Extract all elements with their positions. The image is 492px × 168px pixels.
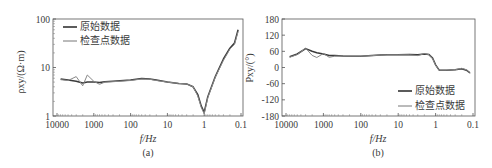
x-tick-label: 1: [202, 120, 207, 130]
x-tick-label: 0.1: [467, 120, 479, 130]
legend-b: 原始数据 检查点数据: [398, 84, 465, 111]
x-axis-a: 1000010001001010.1: [45, 113, 247, 130]
x-tick-label: 10000: [274, 120, 298, 130]
figure: 100101 1000010001001010.1 原始数据 检查点数据 f/H…: [0, 0, 492, 168]
plot-lines-b: [290, 48, 470, 73]
panel-a: 100101 1000010001001010.1 原始数据 检查点数据 f/H…: [15, 15, 247, 160]
x-tick-label: 100: [123, 120, 138, 130]
y-axis-b: 180120600-60-120-180: [262, 15, 285, 122]
legend-label-original: 原始数据: [80, 20, 120, 32]
caption-a: (a): [142, 147, 153, 159]
x-tick-label: 10: [163, 120, 173, 130]
y-tick-label: 60: [270, 47, 280, 57]
x-tick-label: 100: [354, 120, 369, 130]
legend-label-check: 检查点数据: [80, 34, 130, 46]
series-original-line: [290, 49, 470, 73]
x-tick-label: 1: [433, 120, 438, 130]
legend-a: 原始数据 检查点数据: [63, 20, 130, 46]
y-tick-label: -60: [266, 79, 279, 89]
x-tick-label: 0.1: [235, 120, 247, 130]
y-tick-label: 100: [36, 15, 51, 25]
panel-b: 180120600-60-120-180 1000010001001010.1 …: [244, 15, 479, 160]
x-tick-label: 1000: [314, 120, 333, 130]
x-tick-label: 10: [393, 120, 403, 130]
x-axis-label-b: f/Hz: [370, 133, 387, 144]
legend-label-check: 检查点数据: [415, 99, 465, 111]
caption-b: (b): [372, 147, 384, 159]
y-tick-label: 180: [265, 15, 280, 25]
x-axis-b: 1000010001001010.1: [274, 113, 479, 130]
y-tick-label: 120: [265, 31, 280, 41]
legend-label-original: 原始数据: [415, 84, 455, 96]
x-tick-label: 1000: [84, 120, 103, 130]
x-tick-label: 10000: [45, 120, 69, 130]
plot-frame-a: [53, 19, 243, 116]
y-axis-label-b: Pxy/(°): [244, 54, 256, 83]
y-tick-label: 0: [274, 63, 279, 73]
x-axis-label-a: f/Hz: [140, 133, 157, 144]
y-tick-label: 10: [41, 63, 51, 73]
y-tick-label: -120: [262, 95, 280, 105]
y-axis-label-a: ρxy/(Ω·m): [15, 51, 27, 94]
